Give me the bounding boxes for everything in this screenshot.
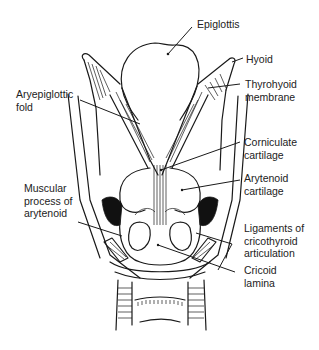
label-cricothyroid-ligaments: Ligaments of cricothyroid articulation — [244, 222, 304, 260]
label-muscular-process: Muscular process of arytenoid — [24, 182, 72, 220]
label-epiglottis: Epiglottis — [197, 18, 240, 31]
label-hyoid: Hyoid — [246, 53, 273, 66]
cricothyroid-ligaments — [104, 238, 216, 262]
label-cricoid-lamina: Cricoid lamina — [244, 264, 277, 289]
label-thyrohyoid-membrane: Thyrohyoid membrane — [245, 78, 297, 103]
label-arytenoid-cartilage: Arytenoid cartilage — [244, 172, 288, 197]
label-corniculate-cartilage: Corniculate cartilage — [244, 136, 297, 161]
trachea — [116, 280, 206, 330]
label-aryepiglottic-fold: Aryepiglottic fold — [16, 88, 73, 113]
epiglottis-shape — [121, 43, 199, 120]
right-hyoid-horn — [190, 58, 248, 278]
arytenoid-cartilages — [120, 165, 200, 225]
larynx-diagram: Epiglottis Hyoid Thyrohyoid membrane Ary… — [0, 0, 319, 350]
